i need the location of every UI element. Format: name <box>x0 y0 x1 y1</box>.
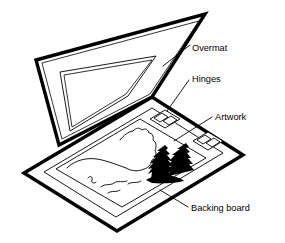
label-hinges: Hinges <box>192 74 221 84</box>
matting-diagram-figure: Overmat Hinges Artwork Backing board <box>0 0 285 243</box>
label-artwork: Artwork <box>215 112 247 122</box>
leader-hinges <box>167 80 189 111</box>
diagram-canvas: Overmat Hinges Artwork Backing board <box>0 0 285 243</box>
label-overmat: Overmat <box>192 43 228 53</box>
label-backing-board: Backing board <box>191 203 250 213</box>
